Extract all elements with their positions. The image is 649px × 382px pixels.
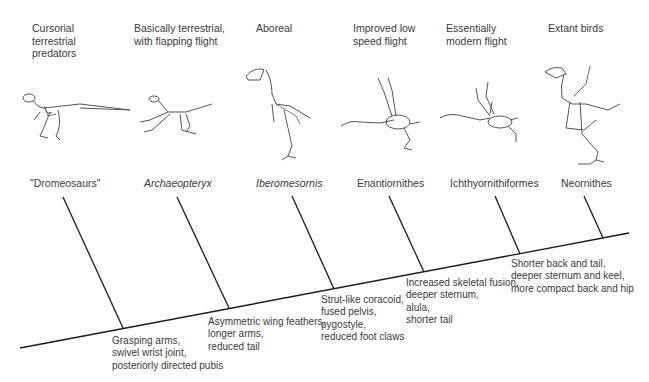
habit-label-dromeosaurs: Cursorial terrestrial predators — [32, 22, 76, 60]
branch-ichthyornithiformes — [495, 196, 520, 254]
habit-label-iberomesornis: Aboreal — [256, 22, 292, 35]
trait-label-node2: Asymmetric wing feathers, longer arms, r… — [208, 316, 325, 353]
habit-label-ichthyornithiformes: Essentially modern flight — [446, 22, 507, 47]
habit-label-archaeopteryx: Basically terrestrial, with flapping fli… — [134, 22, 225, 47]
taxon-label-neornithes: Neornithes — [561, 177, 612, 190]
taxon-label-archaeopteryx: Archaeopteryx — [144, 177, 212, 190]
taxon-label-enantiornithes: Enantiornithes — [357, 177, 424, 190]
branch-archaeopteryx — [177, 197, 229, 308]
trait-label-node1: Grasping arms, swivel wrist joint, poste… — [112, 335, 223, 372]
branch-enantiornithes — [389, 196, 424, 272]
taxon-label-dromeosaurs: "Dromeosaurs" — [30, 177, 100, 190]
trait-label-node5: Shorter back and tail, deeper sternum an… — [511, 258, 634, 295]
branch-iberomesornis — [292, 196, 334, 289]
branch-dromeosaurs — [63, 197, 123, 328]
branch-neornithes — [584, 196, 603, 238]
taxon-label-ichthyornithiformes: Ichthyornithiformes — [450, 177, 539, 190]
taxon-label-iberomesornis: Iberomesornis — [256, 177, 323, 190]
trait-label-node4: Increased skeletal fusion, deeper sternu… — [406, 277, 519, 326]
trait-label-node3: Strut-like coracoid, fused pelvis, pygos… — [321, 294, 404, 343]
habit-label-enantiornithes: Improved low speed flight — [353, 22, 415, 47]
habit-label-neornithes: Extant birds — [548, 22, 603, 35]
